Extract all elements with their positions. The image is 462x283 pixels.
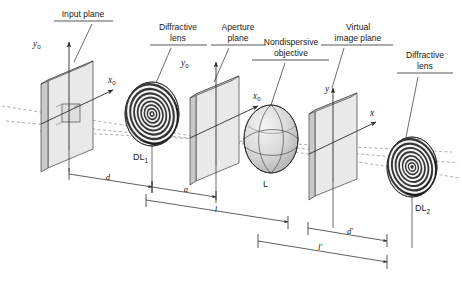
diagram-canvas: y0 x0 <box>0 0 462 283</box>
dimension-label-d-prime: d' <box>347 226 353 236</box>
element-label-objective: L <box>263 179 268 189</box>
callout-input-plane: Input plane <box>54 9 113 62</box>
nondispersive-objective-element <box>244 105 298 173</box>
callout-diffractive-lens-2: Diffractive lens <box>397 50 453 137</box>
dimension-label-d: d <box>106 172 111 182</box>
callout-label-objective-line2: objective <box>274 48 308 58</box>
callout-label-aperture-line1: Aperture <box>222 22 255 32</box>
callout-label-input-plane: Input plane <box>62 9 105 19</box>
dimension-d: d <box>69 168 152 193</box>
axis-label-input-x: x0 <box>107 75 116 86</box>
axis-label-image-x: x <box>369 108 375 118</box>
callout-label-aperture-line2: plane <box>227 33 248 43</box>
callout-label-objective-line1: Nondispersive <box>264 37 319 47</box>
dimension-l-prime: l' <box>258 234 387 269</box>
axis-label-input-y: y0 <box>32 39 41 50</box>
axis-label-aperture-x: x0 <box>252 91 261 102</box>
input-plane-element <box>41 61 93 172</box>
callout-label-dl2-line1: Diffractive <box>406 50 444 60</box>
zone-plate-rings-1 <box>116 74 188 153</box>
dimension-drop-lines <box>69 146 412 248</box>
dimension-label-l: l <box>215 204 218 214</box>
dimension-label-l-prime: l' <box>318 242 322 252</box>
callout-label-dl1-line2: lens <box>170 33 186 43</box>
optical-system-diagram: y0 x0 <box>0 0 462 283</box>
element-label-dl1: DL1 <box>133 152 149 164</box>
dimension-l: l <box>146 194 288 229</box>
callout-virtual-image-plane: Virtual image plane <box>321 22 393 88</box>
callout-label-virtual-line1: Virtual <box>346 22 370 32</box>
zone-plate-rings-2 <box>379 131 444 203</box>
callout-label-dl2-line2: lens <box>417 61 433 71</box>
diffractive-lens-1-element <box>116 74 188 153</box>
diffractive-lens-2-element <box>379 131 444 203</box>
axis-label-aperture-y: y0 <box>180 58 189 69</box>
callout-nondispersive-objective: Nondispersive objective <box>252 37 329 105</box>
callout-label-virtual-line2: image plane <box>335 33 382 43</box>
axis-label-image-y: y <box>324 84 330 94</box>
callout-aperture-plane: Aperture plane <box>211 22 266 82</box>
dimension-a: a <box>152 181 216 203</box>
dimension-label-a: a <box>184 184 188 194</box>
aperture-plane-element <box>190 76 239 185</box>
callout-diffractive-lens-1: Diffractive lens <box>150 22 207 83</box>
element-label-dl2: DL2 <box>415 203 431 215</box>
callout-label-dl1-line1: Diffractive <box>159 22 197 32</box>
